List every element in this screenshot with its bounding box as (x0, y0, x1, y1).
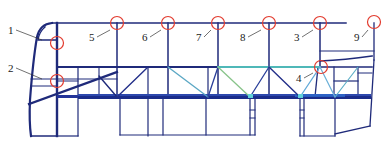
marker-label: 1 (8, 24, 14, 36)
leader-line (16, 68, 42, 79)
marker-8: 8 (240, 17, 276, 44)
leader-line (248, 30, 261, 37)
leader-line (302, 30, 313, 37)
marker-6: 6 (142, 17, 175, 44)
chassis-beam (57, 94, 371, 99)
bus-frame-diagram: 125678394 (0, 0, 391, 146)
marker-label: 8 (240, 31, 246, 43)
truss-members (99, 67, 358, 98)
marker-9: 9 (354, 16, 381, 44)
leader-line (204, 30, 211, 37)
leader-line (304, 73, 313, 78)
marker-label: 3 (294, 31, 300, 43)
marker-label: 7 (196, 31, 202, 43)
marker-label: 4 (296, 72, 302, 84)
marker-2: 2 (8, 62, 64, 88)
leader-line (97, 30, 110, 37)
marker-label: 2 (8, 62, 14, 74)
marker-label: 6 (142, 31, 148, 43)
leader-line (150, 30, 161, 37)
marker-7: 7 (196, 17, 225, 44)
marker-5: 5 (89, 17, 124, 44)
frame-structure (29, 23, 374, 136)
leader-line (362, 30, 368, 37)
marker-label: 5 (89, 31, 95, 43)
marker-label: 9 (354, 31, 360, 43)
marker-3: 3 (294, 17, 327, 44)
